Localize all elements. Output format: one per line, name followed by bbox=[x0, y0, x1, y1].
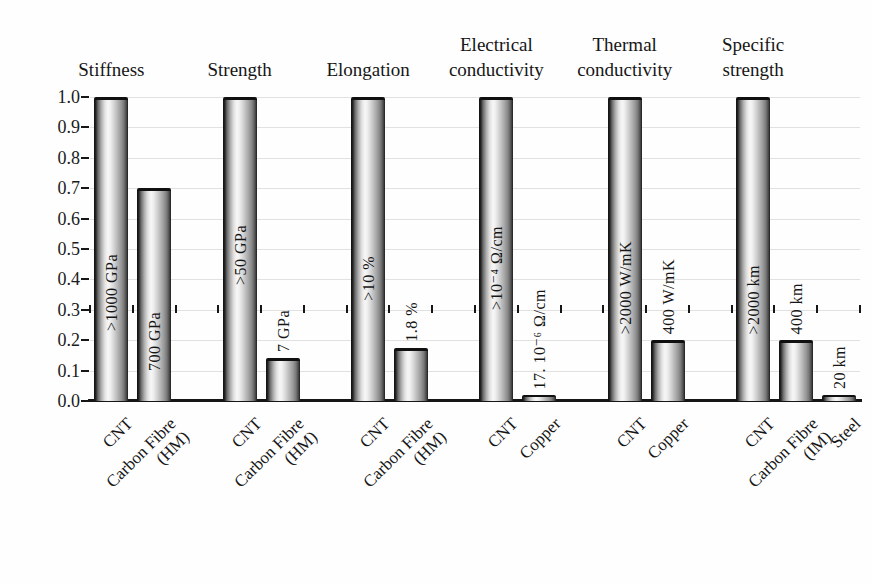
x-tick bbox=[688, 305, 690, 313]
bar bbox=[651, 340, 685, 401]
bar-annotation: >1000 GPa bbox=[103, 254, 121, 331]
bar bbox=[522, 395, 556, 401]
y-tick-label: 0.0 bbox=[26, 391, 80, 411]
x-tick bbox=[773, 305, 775, 313]
category-label-line: Copper bbox=[644, 414, 693, 463]
bar-annotation: 20 km bbox=[831, 346, 849, 389]
group-title-line: strength bbox=[658, 57, 848, 82]
category-label-line: CNT bbox=[356, 414, 393, 451]
y-tick bbox=[81, 370, 89, 372]
bar-annotation: 400 W/mK bbox=[660, 259, 678, 334]
bar-annotation: >10⁻⁴ Ω/cm bbox=[488, 226, 506, 310]
category-label-line: CNT bbox=[613, 414, 650, 451]
x-tick bbox=[260, 305, 262, 313]
bar-annotation: 400 km bbox=[788, 283, 806, 334]
y-tick-label: 0.3 bbox=[26, 300, 80, 320]
x-tick bbox=[645, 305, 647, 313]
y-tick bbox=[81, 126, 89, 128]
category-label-line: CNT bbox=[741, 414, 778, 451]
bar bbox=[822, 395, 856, 401]
bar-annotation: 1.8 % bbox=[403, 302, 421, 342]
bar bbox=[394, 348, 428, 401]
y-tick bbox=[81, 339, 89, 341]
bar-annotation: >10 % bbox=[360, 256, 378, 301]
category-label: CNT bbox=[613, 414, 650, 451]
y-tick-label: 0.4 bbox=[26, 269, 80, 289]
y-tick bbox=[81, 96, 89, 98]
bar-annotation: >2000 W/mK bbox=[617, 241, 635, 334]
category-label: CNT bbox=[484, 414, 521, 451]
x-tick bbox=[474, 305, 476, 313]
category-label-line: Steel bbox=[827, 414, 864, 451]
y-tick-label: 0.1 bbox=[26, 361, 80, 381]
x-tick bbox=[175, 305, 177, 313]
category-label: CNT bbox=[741, 414, 778, 451]
category-label: CNT bbox=[99, 414, 136, 451]
bar bbox=[266, 358, 300, 401]
x-tick bbox=[731, 305, 733, 313]
category-label-line: Copper bbox=[516, 414, 565, 463]
group-title: Specificstrength bbox=[658, 32, 848, 82]
category-label: CNT bbox=[228, 414, 265, 451]
x-tick bbox=[560, 305, 562, 313]
category-label: Steel bbox=[827, 414, 864, 451]
y-tick-label: 0.2 bbox=[26, 330, 80, 350]
y-tick bbox=[81, 309, 89, 311]
category-label-line: CNT bbox=[99, 414, 136, 451]
x-tick bbox=[132, 305, 134, 313]
y-tick-label: 0.5 bbox=[26, 239, 80, 259]
y-tick-label: 0.9 bbox=[26, 117, 80, 137]
bar bbox=[351, 97, 385, 401]
x-tick bbox=[602, 305, 604, 313]
y-tick-label: 0.8 bbox=[26, 148, 80, 168]
category-label: Copper bbox=[516, 414, 565, 463]
y-tick bbox=[81, 187, 89, 189]
bar-annotation: 7 GPa bbox=[275, 310, 293, 352]
category-label-line: CNT bbox=[484, 414, 521, 451]
x-tick bbox=[303, 305, 305, 313]
bar bbox=[779, 340, 813, 401]
y-tick bbox=[81, 248, 89, 250]
bar-annotation: >50 GPa bbox=[232, 225, 250, 285]
x-tick bbox=[388, 305, 390, 313]
category-label: Copper bbox=[644, 414, 693, 463]
y-tick-label: 0.7 bbox=[26, 178, 80, 198]
x-tick bbox=[346, 305, 348, 313]
category-label: CNT bbox=[356, 414, 393, 451]
bar-chart-figure: 1.00.90.80.70.60.50.40.30.20.10.0Stiffne… bbox=[0, 0, 872, 584]
bar-annotation: >2000 km bbox=[745, 265, 763, 334]
category-label-line: CNT bbox=[228, 414, 265, 451]
y-tick bbox=[81, 218, 89, 220]
x-tick bbox=[816, 305, 818, 313]
y-tick-label: 1.0 bbox=[26, 87, 80, 107]
group-title-line: Specific bbox=[658, 32, 848, 57]
x-tick bbox=[859, 305, 861, 313]
bar-annotation: 700 GPa bbox=[146, 312, 164, 371]
x-tick bbox=[89, 305, 91, 313]
bar bbox=[94, 97, 128, 401]
bar bbox=[736, 97, 770, 401]
bar-annotation: 17. 10⁻⁶ Ω/cm bbox=[531, 289, 549, 389]
y-tick bbox=[81, 400, 89, 402]
y-tick-label: 0.6 bbox=[26, 209, 80, 229]
x-tick bbox=[217, 305, 219, 313]
x-tick bbox=[517, 305, 519, 313]
y-tick bbox=[81, 278, 89, 280]
y-tick bbox=[81, 157, 89, 159]
x-tick bbox=[431, 305, 433, 313]
